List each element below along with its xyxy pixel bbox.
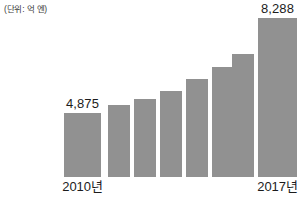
- bar: [134, 99, 156, 177]
- bar: [258, 18, 297, 177]
- bar-group: [134, 99, 156, 177]
- bar: [108, 105, 130, 177]
- bar: [160, 91, 182, 177]
- x-axis-label: 2010년: [62, 179, 102, 195]
- bar-value-label: 4,875: [66, 96, 99, 111]
- bar-group: [186, 79, 208, 177]
- bar-group: [160, 91, 182, 177]
- bar: [232, 54, 254, 177]
- bar-value-label: 8,288: [261, 1, 294, 16]
- bar-chart: (단위: 억 엔) 4,8758,288 2010년2017년: [0, 0, 303, 200]
- bar-group: 4,875: [64, 113, 101, 177]
- bar-group: [108, 105, 130, 177]
- plot-area: 4,8758,288: [0, 0, 303, 177]
- bar-group: 8,288: [258, 18, 297, 177]
- bar-group: [212, 67, 234, 177]
- bar: [212, 67, 234, 177]
- x-axis-labels: 2010년2017년: [0, 177, 303, 200]
- bar: [186, 79, 208, 177]
- bar: [64, 113, 101, 177]
- x-axis-label: 2017년: [257, 179, 297, 195]
- bar-group: [232, 54, 254, 177]
